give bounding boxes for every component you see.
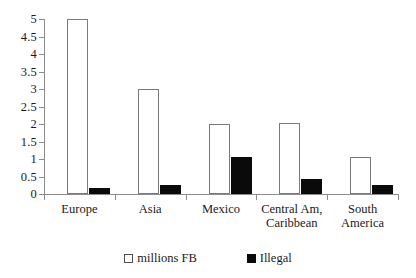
bar-millions-fb [279,123,300,194]
x-axis-tick [186,195,187,200]
x-axis-tick [327,195,328,200]
bar-millions-fb [67,19,88,194]
legend-item-millions-fb[interactable]: millions FB [124,252,196,265]
x-axis-tick [115,195,116,200]
x-axis-category-label: Central Am, Caribbean [251,202,332,230]
x-axis-tick [44,195,45,200]
x-axis-category-label: South America [322,202,403,230]
chart-legend: millions FB Illegal [0,252,416,265]
y-axis-tick-label: 0.5 [21,171,37,184]
y-axis-tick-label: 1 [31,153,37,166]
y-axis-tick-label: 2 [31,118,37,131]
y-axis-tick-label: 4.5 [21,31,37,44]
y-axis-tick-label: 0 [31,188,37,201]
y-axis-tick-label: 4 [31,48,37,61]
bar-illegal [160,185,181,194]
x-axis-tick [256,195,257,200]
bar-millions-fb [209,124,230,194]
plot-area [44,19,398,194]
x-axis-line [44,194,399,195]
y-axis-tick-label: 3 [31,83,37,96]
legend-label-illegal: Illegal [260,252,292,265]
x-axis-category-label: Mexico [181,202,262,216]
bar-illegal [372,185,393,194]
bar-millions-fb [138,89,159,194]
y-axis-tick-label: 2.5 [21,101,37,114]
y-axis-tick-label: 1.5 [21,136,37,149]
x-axis-tick [398,195,399,200]
legend-item-illegal[interactable]: Illegal [247,252,292,265]
legend-swatch-millions-fb-icon [124,254,133,263]
bar-chart-figure: 00.511.522.533.544.55 EuropeAsiaMexicoCe… [0,0,416,278]
legend-label-millions-fb: millions FB [137,252,196,265]
y-axis-tick-label: 3.5 [21,66,37,79]
x-axis-category-label: Europe [39,202,120,216]
legend-swatch-illegal-icon [247,254,256,263]
bar-illegal [231,157,252,194]
bar-illegal [301,179,322,194]
bar-millions-fb [350,157,371,194]
bar-illegal [89,188,110,194]
x-axis-category-label: Asia [110,202,191,216]
y-axis-tick-label: 5 [31,13,37,26]
